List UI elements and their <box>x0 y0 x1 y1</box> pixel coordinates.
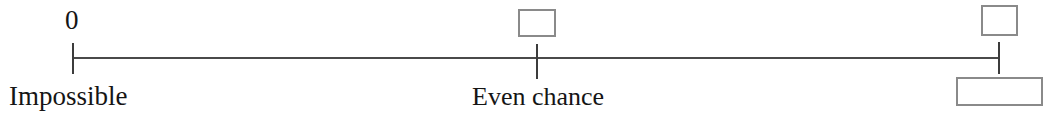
axis-value-zero: 0 <box>65 7 79 34</box>
middle-value-answer-box[interactable] <box>518 9 556 37</box>
axis-label-even-chance: Even chance <box>472 84 604 110</box>
probability-number-line: 0 Impossible Even chance <box>0 0 1044 121</box>
right-value-answer-box[interactable] <box>981 5 1018 36</box>
axis-label-impossible: Impossible <box>9 83 128 110</box>
tick-even-chance <box>536 44 538 79</box>
tick-impossible <box>72 43 74 74</box>
right-description-answer-box[interactable] <box>956 77 1043 106</box>
tick-certain <box>998 42 1000 74</box>
